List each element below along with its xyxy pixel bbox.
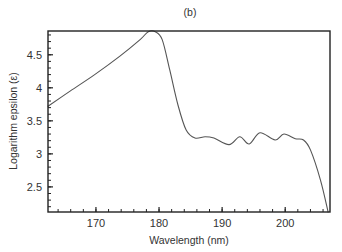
x-axis-label: Wavelength (nm)	[149, 234, 229, 246]
y-axis-label: Logarithm epsilon (ε)	[7, 72, 19, 169]
y-tick-label: 3.5	[27, 115, 42, 127]
y-tick-label: 3	[36, 148, 42, 160]
y-tick-label: 4.5	[27, 49, 42, 61]
y-tick-label: 2.5	[27, 181, 42, 193]
x-tick-labels: 170180190200	[87, 217, 295, 229]
minor-ticks	[48, 35, 323, 212]
y-tick-labels: 2.533.544.5	[27, 49, 42, 193]
major-ticks	[48, 55, 285, 212]
x-tick-label: 180	[150, 217, 168, 229]
x-tick-label: 170	[87, 217, 105, 229]
chart-title: (b)	[184, 6, 197, 18]
plot-frame	[48, 31, 330, 212]
line-chart: (b) 170180190200 2.533.544.5 Wavelength …	[0, 0, 342, 252]
x-tick-label: 190	[213, 217, 231, 229]
spectrum-line	[48, 31, 328, 212]
y-tick-label: 4	[36, 82, 42, 94]
x-tick-label: 200	[276, 217, 294, 229]
